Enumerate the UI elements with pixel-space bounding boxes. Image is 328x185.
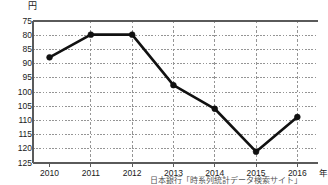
x-axis-tick-label: 2012 [123,168,142,178]
source-note: 日本銀行「時系列統計データ検索サイト」 [150,176,326,185]
x-axis-tick-label: 2010 [40,168,59,178]
x-axis-tick-label: 2011 [82,168,100,178]
